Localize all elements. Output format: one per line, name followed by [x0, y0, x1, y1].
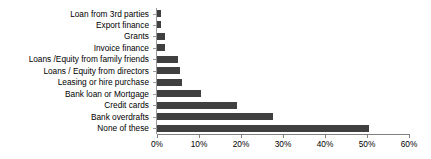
bar: [157, 90, 201, 97]
x-axis-tick: [409, 134, 410, 138]
x-axis-tick: [367, 134, 368, 138]
x-axis-tick: [199, 134, 200, 138]
x-axis-tick-label: 40%: [317, 139, 334, 149]
x-axis-tick-label: 0%: [151, 139, 163, 149]
x-axis-tick-label: 10%: [191, 139, 208, 149]
bar-chart: Loan from 3rd partiesExport financeGrant…: [0, 0, 431, 159]
bar-row: [157, 19, 409, 30]
category-tick: [153, 48, 156, 49]
category-axis-labels: Loan from 3rd partiesExport financeGrant…: [0, 8, 153, 134]
bar-row: [157, 88, 409, 99]
x-axis-tick: [157, 134, 158, 138]
x-axis-tick-label: 20%: [233, 139, 250, 149]
x-axis-tick: [283, 134, 284, 138]
bar-row: [157, 54, 409, 65]
plot-area: [157, 8, 409, 134]
category-tick: [153, 128, 156, 129]
category-label: Leasing or hire purchase: [58, 77, 149, 87]
category-label: Credit cards: [104, 100, 149, 110]
bar: [157, 44, 165, 51]
bar: [157, 33, 165, 40]
category-tick: [153, 94, 156, 95]
category-tick: [153, 105, 156, 106]
bar-row: [157, 31, 409, 42]
bar: [157, 113, 273, 120]
category-label: Bank overdrafts: [91, 112, 149, 122]
bar-row: [157, 77, 409, 88]
bar-row: [157, 8, 409, 19]
bar-row: [157, 42, 409, 53]
category-tick: [153, 59, 156, 60]
bar-row: [157, 100, 409, 111]
category-tick: [153, 14, 156, 15]
bar: [157, 125, 369, 132]
category-tick: [153, 82, 156, 83]
category-label: Loan from 3rd parties: [70, 9, 149, 19]
category-tick: [153, 36, 156, 37]
category-label: Invoice finance: [94, 43, 149, 53]
bar: [157, 10, 161, 17]
category-label: None of these: [97, 123, 149, 133]
category-label: Loans /Equity from family friends: [29, 54, 149, 64]
bar: [157, 102, 237, 109]
category-label: Grants: [124, 31, 149, 41]
x-axis-tick: [325, 134, 326, 138]
bar-row: [157, 123, 409, 134]
bar-row: [157, 65, 409, 76]
bar: [157, 21, 161, 28]
bar: [157, 67, 180, 74]
category-label: Bank loan or Mortgage: [65, 89, 149, 99]
category-tick: [153, 117, 156, 118]
x-axis-tick-label: 60%: [401, 139, 418, 149]
category-label: Loans / Equity from directors: [43, 66, 149, 76]
category-tick: [153, 25, 156, 26]
x-axis-tick-label: 50%: [359, 139, 376, 149]
category-tick: [153, 71, 156, 72]
bar-row: [157, 111, 409, 122]
category-label: Export finance: [96, 20, 149, 30]
x-axis-tick-label: 30%: [275, 139, 292, 149]
x-axis-tick: [241, 134, 242, 138]
bar: [157, 56, 178, 63]
bar: [157, 79, 182, 86]
